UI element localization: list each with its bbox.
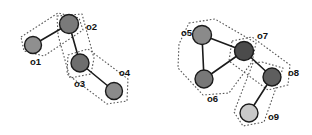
node-label-o4: o4 <box>119 67 131 78</box>
edge-layer <box>33 24 272 113</box>
node-o6[interactable] <box>195 70 213 88</box>
graph-svg: o1o2o3o4o5o6o7o8o9 <box>0 0 312 135</box>
node-o9[interactable] <box>240 104 258 122</box>
node-o4[interactable] <box>106 83 123 100</box>
node-label-o7: o7 <box>257 30 268 41</box>
node-o8[interactable] <box>263 68 281 86</box>
node-o5[interactable] <box>193 26 212 45</box>
node-label-o8: o8 <box>288 67 299 78</box>
node-label-layer: o1o2o3o4o5o6o7o8o9 <box>30 21 299 122</box>
node-label-o5: o5 <box>181 27 193 38</box>
node-o1[interactable] <box>25 37 42 54</box>
node-label-o2: o2 <box>86 21 97 32</box>
node-label-o9: o9 <box>268 111 279 122</box>
node-o7[interactable] <box>235 42 254 61</box>
node-label-o6: o6 <box>207 93 218 104</box>
node-layer <box>25 15 282 123</box>
diagram-canvas: o1o2o3o4o5o6o7o8o9 <box>0 0 312 135</box>
node-label-o3: o3 <box>74 78 85 89</box>
node-o2[interactable] <box>60 15 79 34</box>
node-label-o1: o1 <box>30 56 42 67</box>
node-o3[interactable] <box>71 54 89 72</box>
